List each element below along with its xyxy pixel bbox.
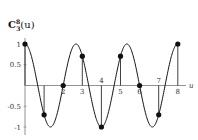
x-tick-label: 7 <box>156 77 160 85</box>
data-point <box>118 54 123 59</box>
y-tick-label: -0.5 <box>8 103 22 111</box>
data-point <box>175 41 180 46</box>
x-tick-label: 6 <box>137 88 142 96</box>
x-tick-label: 3 <box>80 88 84 96</box>
chart-title: C83(u) <box>8 18 35 32</box>
y-tick-label: 0.5 <box>10 61 21 69</box>
y-tick-label: 1 <box>17 41 21 49</box>
x-tick-label: 2 <box>61 88 65 96</box>
y-tick-label: -1 <box>14 124 21 132</box>
chart: C83(u)u10.5-0.5-12345678 <box>0 0 198 140</box>
data-point <box>22 41 27 46</box>
data-point <box>156 112 161 117</box>
x-tick-label: 5 <box>118 88 122 96</box>
x-tick-label: 8 <box>176 88 180 96</box>
data-point <box>42 112 47 117</box>
data-point <box>99 124 104 129</box>
x-axis-label: u <box>189 82 194 90</box>
x-tick-label: 4 <box>99 77 104 85</box>
data-point <box>80 54 85 59</box>
